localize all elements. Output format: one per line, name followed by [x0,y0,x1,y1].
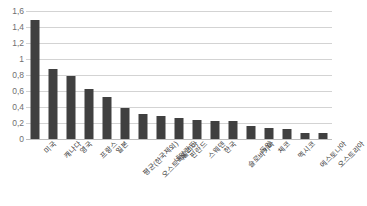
y-axis-tick-label: 1 [2,55,24,64]
y-axis-tick-label: 0,6 [2,87,24,96]
y-axis-tick-label: 1,4 [2,23,24,32]
bar-slot [116,11,134,139]
y-axis-tick-label: 0 [2,135,24,144]
bar-slot [152,11,170,139]
x-axis-category-label: 일본 [115,140,130,155]
x-axis-category-label: 멕시코 [297,140,317,160]
x-axis-category-label: 미국 [43,140,58,155]
bar [103,97,112,139]
bar-slot [278,11,296,139]
bar-slot [170,11,188,139]
bar-slot [206,11,224,139]
bar [49,69,58,139]
y-axis-tick-label: 1,6 [2,7,24,16]
bar [319,133,328,139]
bar-slot [188,11,206,139]
y-axis-tick-label: 0,4 [2,103,24,112]
x-axis-category-label: 체코 [277,140,292,155]
bar [211,121,220,139]
bar-slot [134,11,152,139]
bar [229,121,238,139]
bar-slot [242,11,260,139]
bar [175,118,184,139]
bar [193,120,202,139]
bar-slot [26,11,44,139]
x-axis-category-label: 한국 [223,140,238,155]
plot-area [26,11,332,139]
bar-series [26,11,332,139]
bar [265,128,274,139]
bar [247,126,256,139]
bar [85,89,94,139]
y-axis-tick-label: 0,2 [2,119,24,128]
bar-slot [296,11,314,139]
bar-slot [260,11,278,139]
bar-slot [44,11,62,139]
x-axis-category-labels: 미국캐나다영국프랑스일본평균(한국제외)오스트레일리아네덜란드핀란드스웨덴한국슬… [26,140,332,206]
bar [67,76,76,139]
y-axis-tick-label: 1,2 [2,39,24,48]
bar-slot [62,11,80,139]
bar [139,114,148,139]
bar-slot [80,11,98,139]
bar-slot [224,11,242,139]
bar-slot [314,11,332,139]
bar [31,20,40,139]
x-axis-category-label: 독일 [259,140,274,155]
x-axis-category-label: 영국 [79,140,94,155]
bar [157,116,166,139]
y-axis-tick-label: 0,8 [2,71,24,80]
bar-slot [98,11,116,139]
bar [283,129,292,139]
bar [121,108,130,139]
bar [301,133,310,139]
